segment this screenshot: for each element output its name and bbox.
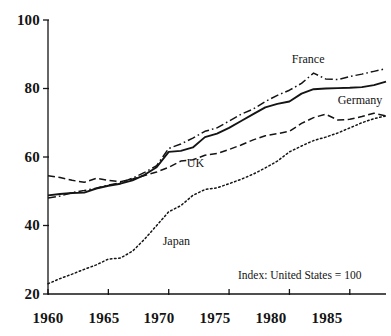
x-axis-tick-1985: 1985 <box>297 311 357 326</box>
series-label-france: France <box>292 53 325 65</box>
y-axis-tick-60: 60 <box>6 150 40 165</box>
y-axis-tick-80: 80 <box>6 81 40 96</box>
x-axis-tick-1960: 1960 <box>18 311 78 326</box>
x-axis-tick-1975: 1975 <box>185 311 245 326</box>
series-line-germany <box>48 82 386 196</box>
series-label-japan: Japan <box>163 235 190 247</box>
chart-series <box>48 69 386 284</box>
line-chart: 100 80 60 40 20 1960 1965 1970 1975 1980… <box>0 0 391 336</box>
y-axis-tick-100: 100 <box>6 13 40 28</box>
index-note: Index: United States = 100 <box>238 270 361 282</box>
series-label-uk: UK <box>187 157 204 169</box>
chart-axes <box>43 20 386 295</box>
x-axis-tick-1965: 1965 <box>74 311 134 326</box>
y-axis-tick-40: 40 <box>6 218 40 233</box>
series-label-germany: Germany <box>338 94 383 106</box>
x-axis-tick-1980: 1980 <box>241 311 301 326</box>
series-line-uk <box>48 113 386 182</box>
y-axis-tick-20: 20 <box>6 287 40 302</box>
series-line-japan <box>48 116 386 284</box>
x-axis-tick-1970: 1970 <box>129 311 189 326</box>
